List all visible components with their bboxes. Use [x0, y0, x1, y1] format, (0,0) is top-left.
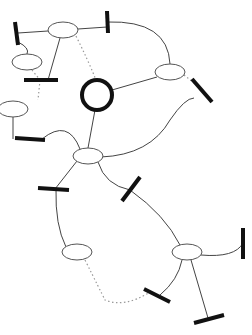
ellipse-node: [73, 148, 103, 164]
bar-terminator: [15, 22, 18, 45]
solid-connector: [56, 189, 66, 247]
bar-terminator: [192, 79, 212, 102]
ellipse-node: [12, 54, 42, 70]
bar-terminator: [144, 289, 170, 302]
ellipse-node: [62, 244, 92, 260]
solid-connector: [18, 31, 48, 33]
ellipse-node: [172, 244, 202, 260]
solid-connector: [101, 98, 194, 157]
bar-terminator: [194, 315, 224, 323]
bar-terminator: [15, 138, 45, 140]
solid-connector: [130, 190, 180, 245]
solid-connector: [55, 161, 77, 189]
solid-connector: [88, 110, 95, 148]
solid-connector: [107, 22, 170, 64]
solid-connector: [42, 131, 80, 149]
bar-terminator: [107, 11, 108, 33]
solid-connector: [191, 260, 208, 318]
network-diagram: [0, 0, 252, 335]
dotted-connector: [76, 36, 96, 80]
dotted-connector: [38, 80, 40, 100]
bars-layer: [15, 11, 243, 323]
solid-connector: [98, 162, 130, 190]
solid-connector: [160, 260, 182, 295]
ellipse-node: [0, 101, 28, 117]
solid-connector: [201, 243, 243, 256]
dotted-connector: [85, 260, 150, 303]
bar-terminator: [38, 188, 69, 190]
solid-connector: [112, 77, 157, 90]
solid-connector: [78, 27, 107, 29]
edges-layer: [13, 22, 243, 318]
ellipse-node: [48, 22, 78, 38]
solid-connector: [48, 38, 60, 80]
ellipse-node: [155, 64, 185, 80]
hub-node: [82, 80, 112, 110]
